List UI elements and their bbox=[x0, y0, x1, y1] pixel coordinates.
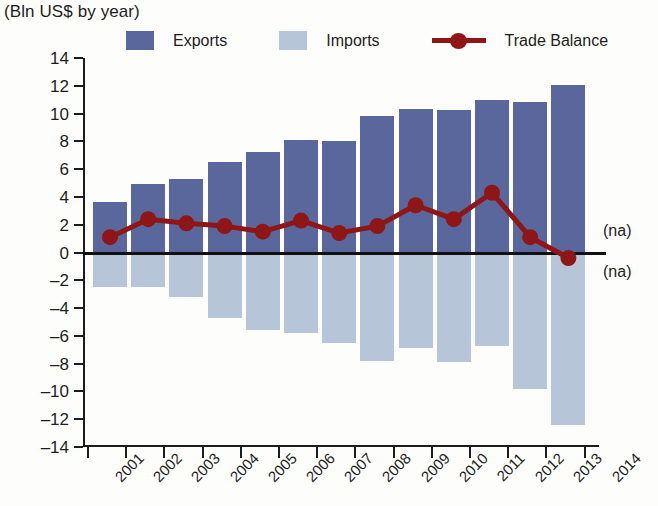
y-tick-label: –6 bbox=[50, 327, 69, 344]
trade-balance-point bbox=[255, 224, 271, 240]
trade-balance-point bbox=[484, 185, 500, 201]
x-tick bbox=[316, 447, 318, 458]
y-tick bbox=[74, 252, 83, 254]
x-tick bbox=[545, 447, 547, 458]
x-tick-label: 2003 bbox=[188, 449, 224, 485]
trade-balance-point bbox=[102, 229, 118, 245]
x-tick bbox=[393, 447, 395, 458]
legend-item-imports: Imports bbox=[279, 31, 379, 50]
x-tick-label: 2011 bbox=[493, 449, 528, 484]
trade-balance-line bbox=[83, 58, 599, 447]
chart-subtitle: (Bln US$ by year) bbox=[4, 2, 140, 22]
legend-line-marker-trade-balance bbox=[432, 31, 486, 50]
trade-balance-point bbox=[293, 213, 309, 229]
trade-balance-point bbox=[446, 211, 462, 227]
x-tick-label: 2013 bbox=[570, 449, 606, 485]
y-tick bbox=[74, 363, 83, 365]
legend-label-exports: Exports bbox=[173, 32, 227, 50]
y-tick-label: –4 bbox=[50, 300, 69, 317]
x-tick-label: 2006 bbox=[302, 449, 338, 485]
y-tick-label: –10 bbox=[41, 383, 69, 400]
x-tick bbox=[278, 447, 280, 458]
y-tick bbox=[74, 196, 83, 198]
annotation-na-bottom: (na) bbox=[603, 263, 631, 281]
legend-item-exports: Exports bbox=[126, 31, 227, 50]
x-tick bbox=[431, 447, 433, 458]
trade-balance-chart: (Bln US$ by year) Exports Imports Trade … bbox=[0, 0, 658, 506]
x-tick-label: 2012 bbox=[532, 449, 568, 485]
plot-area: 14121086420–2–4–6–8–10–12–14 20012002200… bbox=[83, 58, 599, 447]
y-tick-label: 2 bbox=[60, 216, 69, 233]
y-tick-label: –2 bbox=[50, 272, 69, 289]
x-tick-label: 2010 bbox=[455, 449, 491, 485]
x-tick bbox=[469, 447, 471, 458]
y-tick bbox=[74, 335, 83, 337]
x-tick bbox=[87, 447, 89, 458]
y-tick-label: 12 bbox=[50, 77, 69, 94]
x-tick-label: 2008 bbox=[379, 449, 415, 485]
trade-balance-point bbox=[331, 225, 347, 241]
legend-label-trade-balance: Trade Balance bbox=[505, 32, 608, 50]
trade-balance-point bbox=[178, 215, 194, 231]
x-tick-label: 2005 bbox=[264, 449, 300, 485]
y-tick bbox=[74, 418, 83, 420]
x-tick-label: 2004 bbox=[226, 449, 262, 485]
y-tick bbox=[74, 224, 83, 226]
y-tick bbox=[74, 140, 83, 142]
x-tick-label: 2009 bbox=[417, 449, 453, 485]
x-tick-label: 2002 bbox=[150, 449, 186, 485]
legend-label-imports: Imports bbox=[326, 32, 379, 50]
y-tick bbox=[74, 279, 83, 281]
x-tick bbox=[240, 447, 242, 458]
x-tick-label: 2007 bbox=[341, 449, 377, 485]
y-tick-label: 6 bbox=[60, 161, 69, 178]
legend-swatch-imports bbox=[279, 31, 307, 50]
x-tick bbox=[163, 447, 165, 458]
annotation-na-top: (na) bbox=[603, 222, 631, 240]
trade-balance-point bbox=[522, 229, 538, 245]
y-tick-label: 4 bbox=[60, 188, 69, 205]
y-tick bbox=[74, 390, 83, 392]
y-tick-label: 14 bbox=[50, 50, 69, 67]
legend-swatch-exports bbox=[126, 31, 154, 50]
y-tick bbox=[74, 57, 83, 59]
x-tick bbox=[125, 447, 127, 458]
y-tick-label: 8 bbox=[60, 133, 69, 150]
y-tick bbox=[74, 168, 83, 170]
y-tick-label: –14 bbox=[41, 439, 69, 456]
y-tick bbox=[74, 307, 83, 309]
y-tick bbox=[74, 113, 83, 115]
trade-balance-point bbox=[140, 211, 156, 227]
x-tick bbox=[507, 447, 509, 458]
legend-item-trade-balance: Trade Balance bbox=[432, 31, 608, 50]
x-tick-label: 2001 bbox=[111, 449, 147, 485]
x-tick bbox=[202, 447, 204, 458]
trade-balance-point bbox=[560, 250, 576, 266]
y-tick bbox=[74, 85, 83, 87]
y-tick-label: –12 bbox=[41, 411, 69, 428]
x-tick-label: 2014 bbox=[608, 449, 644, 485]
trade-balance-point bbox=[217, 218, 233, 234]
x-tick bbox=[354, 447, 356, 458]
y-tick bbox=[74, 446, 83, 448]
x-tick bbox=[584, 447, 586, 458]
trade-balance-point bbox=[408, 197, 424, 213]
chart-legend: Exports Imports Trade Balance bbox=[126, 31, 608, 50]
y-tick-label: 0 bbox=[60, 244, 69, 261]
trade-balance-point bbox=[369, 218, 385, 234]
y-tick-label: 10 bbox=[50, 105, 69, 122]
y-tick-label: –8 bbox=[50, 355, 69, 372]
